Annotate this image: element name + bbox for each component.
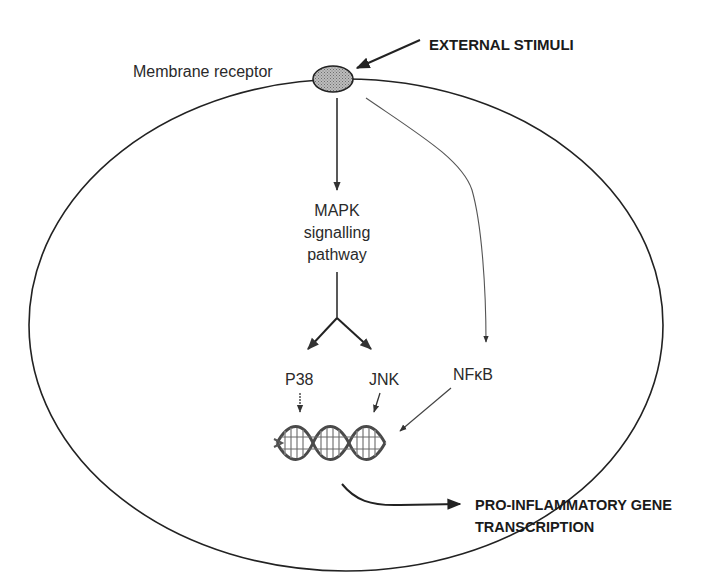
jnk-to-dna-arrow (374, 393, 380, 412)
mapk-label-line3: pathway (307, 246, 367, 263)
mapk-to-p38-arrow (308, 318, 337, 349)
nfkb-label: NFκB (453, 366, 493, 383)
signalling-diagram: EXTERNAL STIMULI Membrane receptor MAPK … (0, 0, 709, 587)
p38-label: P38 (285, 371, 314, 388)
external-stimuli-arrow (357, 40, 420, 68)
nfkb-to-dna-arrow (400, 388, 451, 431)
dna-helix-icon (274, 427, 385, 460)
transcription-label-line1: PRO-INFLAMMATORY GENE (475, 497, 672, 513)
diagram-canvas: EXTERNAL STIMULI Membrane receptor MAPK … (0, 0, 709, 587)
membrane-receptor-icon (313, 66, 353, 92)
membrane-receptor-label: Membrane receptor (133, 63, 273, 80)
receptor-to-nfkb-arrow (366, 98, 486, 342)
mapk-to-jnk-arrow (337, 318, 371, 349)
external-stimuli-label: EXTERNAL STIMULI (429, 36, 574, 53)
mapk-label-line1: MAPK (314, 202, 360, 219)
mapk-label-line2: signalling (304, 224, 371, 241)
jnk-label: JNK (369, 371, 400, 388)
dna-to-transcription-arrow (342, 484, 460, 505)
transcription-label-line2: TRANSCRIPTION (475, 519, 594, 535)
